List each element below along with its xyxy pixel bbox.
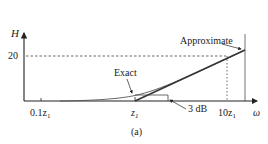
x-axis-label: ω xyxy=(253,108,260,118)
x-tick-z1: z1 xyxy=(131,108,138,120)
figure-caption: (a) xyxy=(131,127,142,137)
x-tick-10z1: 10z1 xyxy=(218,108,236,120)
exact-leader xyxy=(127,79,132,93)
y-tick-20: 20 xyxy=(8,51,18,61)
x-tick-0.1z1: 0.1z1 xyxy=(30,108,50,120)
approximate-label: Approximate xyxy=(180,36,233,46)
exact-label: Exact xyxy=(114,68,137,78)
approximate-line xyxy=(135,50,245,101)
three-db-label: 3 dB xyxy=(188,104,207,114)
y-axis-label: H xyxy=(11,28,19,39)
